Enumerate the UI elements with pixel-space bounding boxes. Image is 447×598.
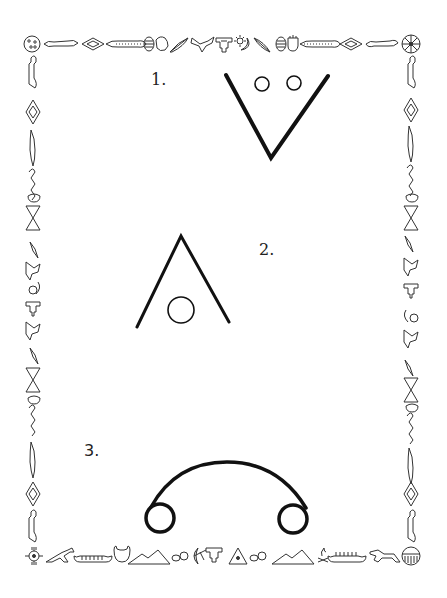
item-3-shape — [0, 0, 447, 598]
left-end-circle — [146, 504, 174, 532]
arc-line — [151, 462, 306, 508]
worksheet-page: 1. 2. 3. — [0, 0, 447, 598]
right-end-circle — [279, 505, 307, 533]
